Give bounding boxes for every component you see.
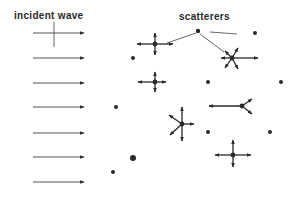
scatterers-label-pointer [167,33,196,43]
scatterer-dot [114,105,118,109]
scatterer-dot [230,56,235,61]
scattering-diagram: incident wave scatterers [0,0,297,199]
scattering-scatterer [209,99,252,114]
scatterer-dot [279,80,283,84]
incident-wave-arrows [33,33,84,182]
scattering-scatterer [137,33,173,55]
scatterer-dot [196,29,200,33]
scattering-scatterer [221,48,258,69]
scatterer-dot [153,80,158,85]
scatterer-dot [153,42,158,47]
scatterer-dot [268,130,272,134]
incident-wave-label: incident wave [14,10,83,21]
diagram-svg [0,0,297,199]
scatterer-dot [253,31,257,35]
scatterer-dot [130,155,136,161]
scatterer-dot [131,56,135,60]
scatterers-label-pointer [200,34,224,52]
scatterer-dot [206,80,210,84]
scatterer-dot [231,153,236,158]
scatterer-dot [240,104,245,109]
scatterers-label-pointer [210,32,237,34]
scattered-wave-arrow [170,124,182,135]
scatterer-dot [180,122,185,127]
scatterer-dot [206,130,210,134]
label-pointer-lines [54,22,237,52]
active-scatterers [137,33,258,167]
passive-scatterer-dots [111,29,283,174]
scattering-scatterer [169,107,194,141]
scattering-scatterer [138,72,166,92]
scatterers-label: scatterers [179,11,230,22]
scatterer-dot [111,170,115,174]
scattering-scatterer [215,140,251,167]
